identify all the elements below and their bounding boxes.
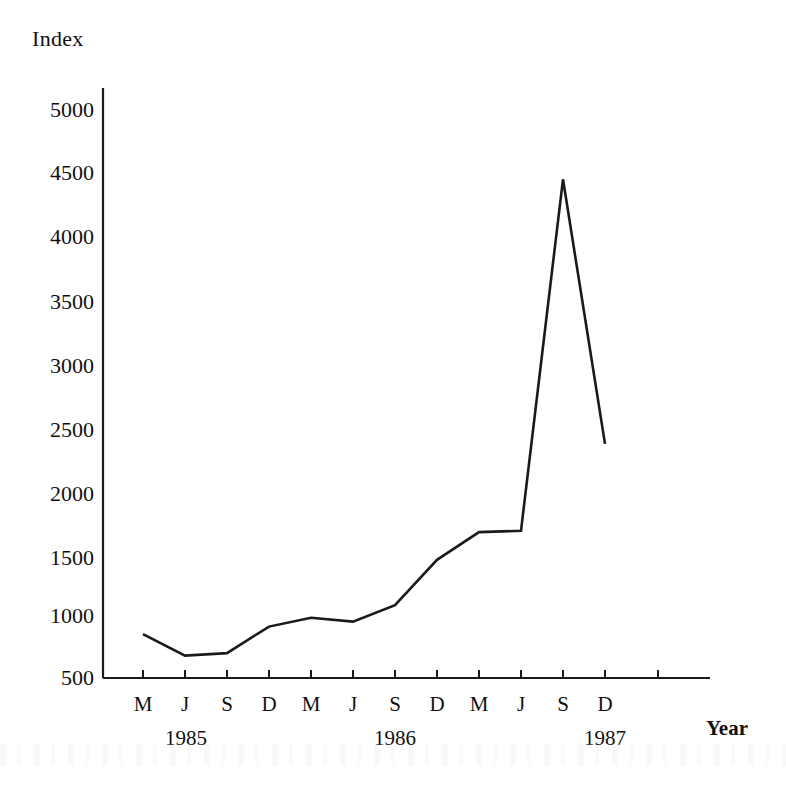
plot-area xyxy=(0,0,786,789)
x-tick-marks xyxy=(143,670,658,678)
data-series-line xyxy=(143,179,605,655)
chart-container: Index Year 5000 4500 4000 3500 3000 2500… xyxy=(0,0,786,789)
